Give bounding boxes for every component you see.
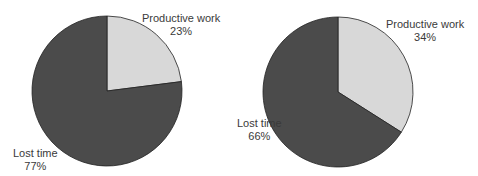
- pie-chart-left: Productive work 23% Lost time 77%: [0, 0, 239, 176]
- label-productive-work-right: Productive work 34%: [386, 18, 464, 44]
- pie-chart-right: Productive work 34% Lost time 66%: [239, 0, 478, 176]
- label-lost-time-left: Lost time 77%: [13, 147, 58, 173]
- label-productive-work-left: Productive work 23%: [142, 12, 220, 38]
- label-lost-time-right: Lost time 66%: [237, 117, 282, 143]
